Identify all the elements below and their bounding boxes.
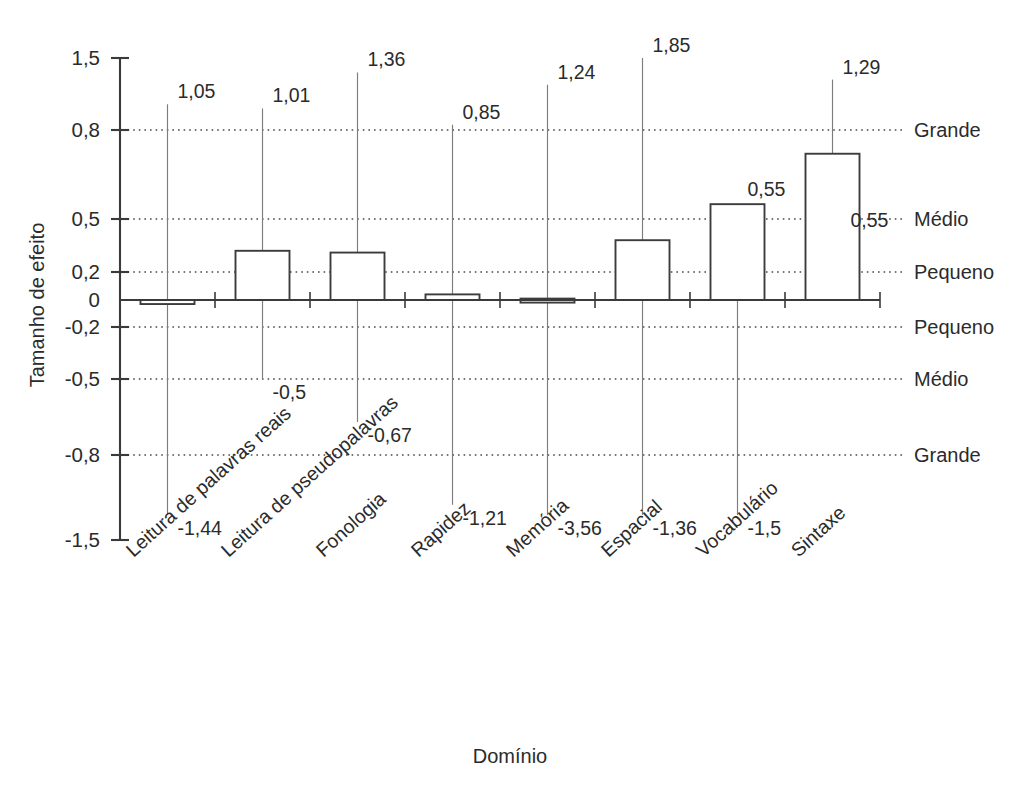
y-tick-label-5: -0,2 bbox=[65, 315, 100, 338]
y-tick-label-7: -0,8 bbox=[65, 443, 100, 466]
y-axis-tick-labels: 1,50,80,50,20-0,2-0,5-0,8-1,5 bbox=[65, 46, 100, 551]
upper-value-label-5: 1,85 bbox=[653, 34, 691, 56]
effect-band-label-3: Pequeno bbox=[914, 316, 994, 338]
y-axis-title: Tamanho de efeito bbox=[26, 223, 48, 388]
lower-value-label-1: -0,5 bbox=[273, 381, 307, 403]
bar-5 bbox=[616, 240, 670, 300]
effect-band-labels: GrandeMédioPequenoPequenoMédioGrande bbox=[914, 119, 994, 466]
effect-band-label-0: Grande bbox=[914, 119, 981, 141]
y-tick-label-3: 0,2 bbox=[72, 260, 101, 283]
lower-value-label-0: -1,44 bbox=[178, 517, 223, 539]
bar-2 bbox=[331, 253, 385, 300]
category-label-1: Leitura de pseudopalavras bbox=[216, 391, 402, 561]
y-tick-label-6: -0,5 bbox=[65, 367, 100, 390]
upper-value-label-1: 1,01 bbox=[273, 84, 311, 106]
effect-band-label-5: Grande bbox=[914, 444, 981, 466]
y-tick-label-4: 0 bbox=[89, 288, 100, 311]
lower-value-label-6: -1,5 bbox=[748, 517, 782, 539]
upper-value-label-0: 1,05 bbox=[178, 80, 216, 102]
effect-band-label-1: Médio bbox=[914, 208, 968, 230]
bar-1 bbox=[236, 251, 290, 300]
bars bbox=[141, 154, 860, 304]
y-tick-label-0: 1,5 bbox=[72, 46, 101, 69]
effect-band-label-4: Médio bbox=[914, 368, 968, 390]
effect-size-chart: 1,50,80,50,20-0,2-0,5-0,8-1,5 GrandeMédi… bbox=[0, 0, 1021, 795]
upper-value-label-3: 0,85 bbox=[463, 101, 501, 123]
lower-value-label-4: -3,56 bbox=[558, 517, 602, 539]
upper-value-label-4: 1,24 bbox=[558, 61, 596, 83]
upper-value-label-2: 1,36 bbox=[368, 48, 406, 70]
x-axis-title: Domínio bbox=[473, 745, 547, 767]
category-label-2: Fonologia bbox=[311, 487, 389, 561]
category-label-3: Rapidez bbox=[406, 497, 474, 561]
y-tick-label-8: -1,5 bbox=[65, 528, 100, 551]
category-label-7: Sintaxe bbox=[786, 501, 849, 561]
bar-6 bbox=[711, 204, 765, 300]
upper-value-label-6: 0,55 bbox=[748, 178, 786, 200]
x-axis-category-labels: Leitura de palavras reaisLeitura de pseu… bbox=[121, 391, 849, 561]
effect-band-label-2: Pequeno bbox=[914, 261, 994, 283]
lower-value-label-5: -1,36 bbox=[653, 517, 697, 539]
y-tick-label-2: 0,5 bbox=[72, 207, 101, 230]
y-tick-label-1: 0,8 bbox=[72, 118, 101, 141]
chart-canvas: 1,50,80,50,20-0,2-0,5-0,8-1,5 GrandeMédi… bbox=[0, 0, 1021, 795]
upper-value-label-7: 1,29 bbox=[843, 56, 881, 78]
lower-value-label-7: 0,55 bbox=[851, 209, 889, 231]
